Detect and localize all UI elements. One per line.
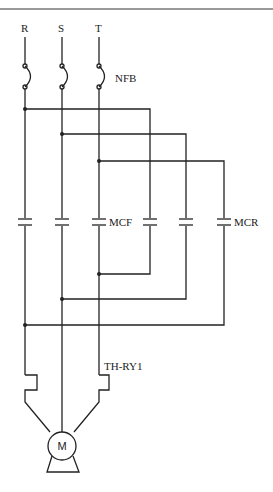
mcr-label: MCR [234,216,259,228]
mcf-label: MCF [109,216,132,228]
phase-label-r: R [21,22,29,34]
thermal-relay-label: TH-RY1 [104,360,143,372]
phase-label-s: S [58,22,64,34]
nfb-label: NFB [115,72,136,84]
mcf-contactor [18,219,106,225]
circuit-diagram: R S T NFB MCF [0,0,273,492]
thermal-relay [25,375,109,432]
reverse-input-wiring [23,107,224,218]
reverse-output-wiring [23,226,224,327]
motor [47,432,79,472]
phase-label-t: T [95,22,102,34]
nfb-breaker [23,37,105,89]
motor-label: M [58,440,67,452]
mcr-contactor [143,219,231,225]
